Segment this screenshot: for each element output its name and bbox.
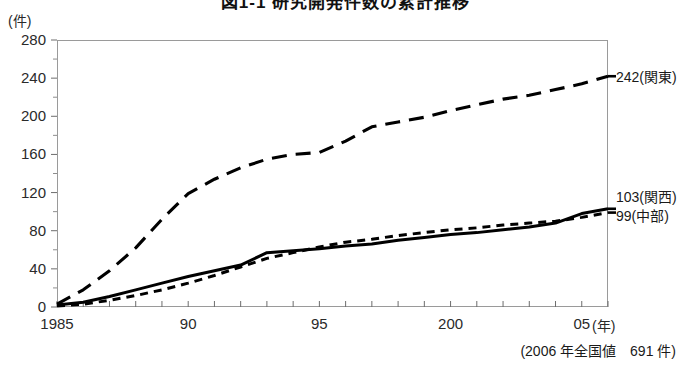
- x-axis-tick-label: 95: [311, 315, 328, 332]
- series-line-関東: [57, 76, 608, 304]
- x-axis-tick-label: 200: [438, 315, 463, 332]
- x-axis-ticks: 1985909520005: [40, 301, 608, 332]
- y-axis-tick-label: 240: [21, 69, 46, 86]
- chart-canvas: 04080120160200240280 1985909520005: [0, 0, 691, 369]
- y-axis-ticks: 04080120160200240280: [21, 31, 57, 315]
- data-series-layer: [57, 76, 616, 306]
- y-axis-tick-label: 0: [38, 298, 46, 315]
- national-total-note: (2006 年全国値 691 件): [0, 340, 676, 360]
- y-axis-tick-label: 160: [21, 145, 46, 162]
- x-axis-unit-label: (年): [592, 315, 615, 335]
- x-axis-tick-label: 05: [573, 315, 590, 332]
- series-end-label-kansai: 103(関西): [616, 186, 677, 206]
- y-axis-tick-label: 80: [29, 222, 46, 239]
- x-axis-tick-label: 1985: [40, 315, 73, 332]
- series-end-label-kanto: 242(関東): [616, 66, 677, 86]
- y-axis-tick-label: 280: [21, 31, 46, 48]
- y-axis-tick-label: 40: [29, 260, 46, 277]
- x-axis-tick-label: 90: [180, 315, 197, 332]
- series-end-label-chubu: 99(中部): [616, 205, 669, 225]
- y-axis-tick-label: 120: [21, 184, 46, 201]
- y-axis-tick-label: 200: [21, 107, 46, 124]
